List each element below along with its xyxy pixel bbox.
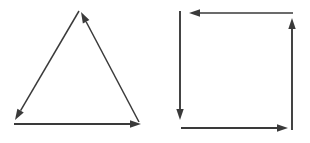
vector-loop-figure [0, 0, 310, 143]
figure-background [0, 0, 310, 143]
